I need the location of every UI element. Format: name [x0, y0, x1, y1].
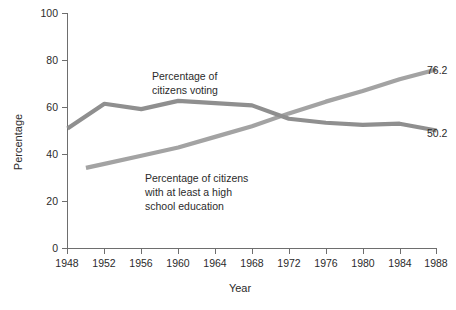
end-value-label-education: 76.2: [427, 64, 448, 76]
education-annotation-line-2: with at least a high: [144, 186, 232, 198]
voting-annotation-line-2: citizens voting: [152, 84, 218, 96]
y-tick-label-0: 0: [52, 242, 58, 254]
line-chart: 100 80 60 40 20 0 1948 1952 1956 1960: [0, 0, 456, 310]
x-axis-tick-labels: 1948 1952 1956 1960 1964 1968 1972 1976 …: [55, 257, 448, 269]
series-line-education: [86, 69, 437, 167]
x-tick-label-1952: 1952: [92, 257, 116, 269]
x-tick-label-1976: 1976: [314, 257, 338, 269]
x-tick-label-1964: 1964: [203, 257, 227, 269]
y-tick-label-100: 100: [40, 7, 58, 19]
education-annotation-line-3: school education: [145, 200, 224, 212]
y-tick-label-20: 20: [46, 195, 58, 207]
x-tick-label-1980: 1980: [351, 257, 375, 269]
voting-annotation-line-1: Percentage of: [152, 70, 217, 82]
x-tick-label-1956: 1956: [129, 257, 153, 269]
x-tick-label-1988: 1988: [424, 257, 448, 269]
x-tick-label-1972: 1972: [277, 257, 301, 269]
x-tick-label-1948: 1948: [55, 257, 79, 269]
education-annotation: Percentage of citizens with at least a h…: [144, 172, 248, 212]
education-annotation-line-1: Percentage of citizens: [145, 172, 248, 184]
y-axis-ticks: [62, 14, 68, 249]
x-tick-label-1960: 1960: [166, 257, 190, 269]
voting-annotation: Percentage of citizens voting: [152, 70, 218, 96]
x-tick-label-1968: 1968: [240, 257, 264, 269]
x-axis-ticks: [68, 249, 437, 255]
x-tick-label-1984: 1984: [388, 257, 412, 269]
x-axis-title: Year: [229, 282, 252, 294]
end-value-label-voting: 50.2: [427, 127, 448, 139]
y-tick-label-60: 60: [46, 101, 58, 113]
y-tick-label-80: 80: [46, 54, 58, 66]
y-tick-label-40: 40: [46, 148, 58, 160]
y-axis-tick-labels: 100 80 60 40 20 0: [40, 7, 58, 254]
y-axis-title: Percentage: [12, 114, 24, 170]
chart-container: 100 80 60 40 20 0 1948 1952 1956 1960: [0, 0, 456, 310]
